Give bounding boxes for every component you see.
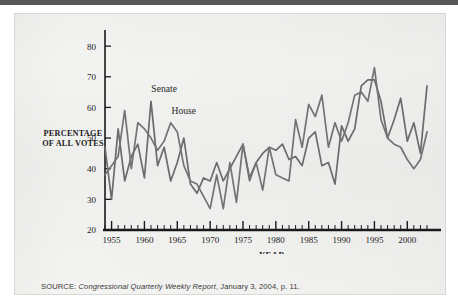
x-axis-tick-label: 1965 xyxy=(168,235,187,245)
source-citation: SOURCE: Congressional Quarterly Weekly R… xyxy=(41,282,300,291)
y-axis-tick-label: 40 xyxy=(87,164,97,174)
y-axis-tick-label: 70 xyxy=(87,72,97,82)
figure-container: 2030405060708019551960196519701975198019… xyxy=(14,13,446,295)
page-top-bar xyxy=(0,0,458,5)
x-axis-tick-label: 1985 xyxy=(300,235,319,245)
x-axis-tick-label: 1980 xyxy=(267,235,286,245)
x-axis-tick-label: 1995 xyxy=(365,235,384,245)
y-axis-label-line2: OF ALL VOTES xyxy=(42,139,104,148)
series-label-senate: Senate xyxy=(151,83,177,94)
y-axis-label: PERCENTAGE OF ALL VOTES xyxy=(33,129,113,149)
x-axis-tick-label: 2000 xyxy=(398,235,417,245)
source-publication: Congressional Quarterly Weekly Report xyxy=(79,282,216,291)
x-axis-tick-label: 1970 xyxy=(201,235,220,245)
x-axis-tick-label: 1955 xyxy=(103,235,122,245)
source-label: SOURCE: xyxy=(41,282,76,291)
series-label-house: House xyxy=(172,105,197,116)
x-axis-tick-label: 1975 xyxy=(234,235,253,245)
y-axis-label-line1: PERCENTAGE xyxy=(44,129,103,138)
x-axis-tick-label: 1990 xyxy=(333,235,352,245)
y-axis-tick-label: 60 xyxy=(87,103,97,113)
figure-page: 2030405060708019551960196519701975198019… xyxy=(0,0,458,305)
y-axis-tick-label: 30 xyxy=(87,195,97,205)
y-axis-tick-label: 20 xyxy=(87,225,97,235)
y-axis-tick-label: 80 xyxy=(87,42,97,52)
figure-divider xyxy=(29,272,458,273)
source-rest: , January 3, 2004, p. 11. xyxy=(216,282,300,291)
x-axis-title: YEAR xyxy=(259,251,285,254)
x-axis-tick-label: 1960 xyxy=(135,235,154,245)
